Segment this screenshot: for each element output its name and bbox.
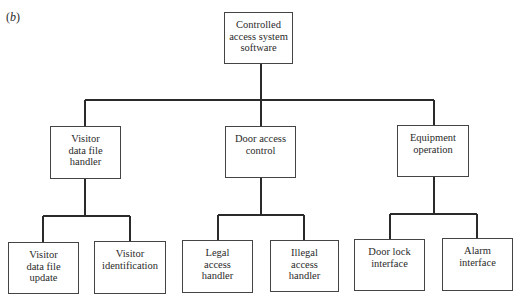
node-visitor-update-text: Visitor data file update — [26, 249, 60, 284]
node-visitor-handler-text: Visitor data file handler — [68, 133, 102, 168]
node-root-text: Controlled access system software — [229, 19, 288, 54]
node-door-lock: Door lock interface — [354, 239, 425, 291]
node-visitor-handler: Visitor data file handler — [50, 126, 121, 179]
node-door-access-text: Door access control — [235, 133, 286, 156]
node-alarm: Alarm interface — [442, 238, 513, 291]
node-illegal-text: Illegal access handler — [289, 247, 321, 282]
node-visitor-id-text: Visitor identification — [102, 248, 158, 271]
node-illegal: Illegal access handler — [270, 240, 339, 292]
node-visitor-id: Visitor identification — [94, 241, 166, 294]
node-visitor-update: Visitor data file update — [8, 242, 79, 294]
node-legal: Legal access handler — [182, 240, 253, 293]
node-legal-text: Legal access handler — [202, 247, 234, 282]
node-equipment-text: Equipment operation — [410, 132, 456, 155]
node-root: Controlled access system software — [224, 12, 293, 64]
node-equipment: Equipment operation — [397, 125, 469, 177]
node-alarm-text: Alarm interface — [459, 245, 496, 268]
node-door-lock-text: Door lock interface — [368, 246, 410, 269]
node-door-access: Door access control — [225, 126, 296, 178]
